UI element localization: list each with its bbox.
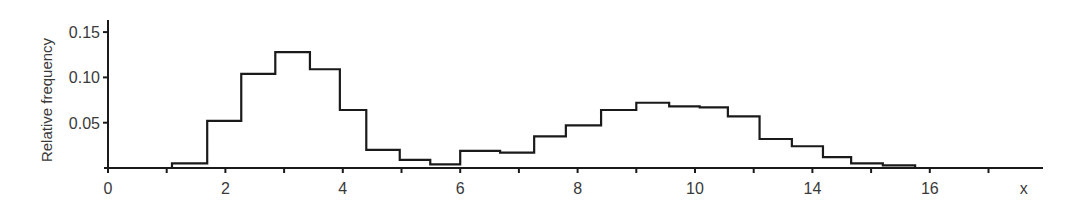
y-axis-title: Relative frequency [38, 37, 55, 162]
x-tick-label: 8 [573, 180, 582, 197]
y-axis: 0.050.100.15 [69, 20, 108, 172]
y-tick-label: 0.10 [69, 69, 100, 86]
histogram-chart: 0.050.100.15 02468101416x Relative frequ… [0, 0, 1076, 209]
x-tick-label: 14 [804, 180, 822, 197]
x-tick-label: 16 [921, 180, 939, 197]
y-tick-label: 0.05 [69, 115, 100, 132]
x-axis-title: x [1020, 180, 1028, 197]
x-tick-label: 0 [104, 180, 113, 197]
histogram-step-line [108, 52, 915, 168]
x-tick-label: 2 [221, 180, 230, 197]
x-axis: 02468101416x [104, 168, 1043, 197]
y-tick-label: 0.15 [69, 24, 100, 41]
x-tick-label: 10 [686, 180, 704, 197]
x-tick-label: 4 [338, 180, 347, 197]
x-tick-label: 6 [456, 180, 465, 197]
